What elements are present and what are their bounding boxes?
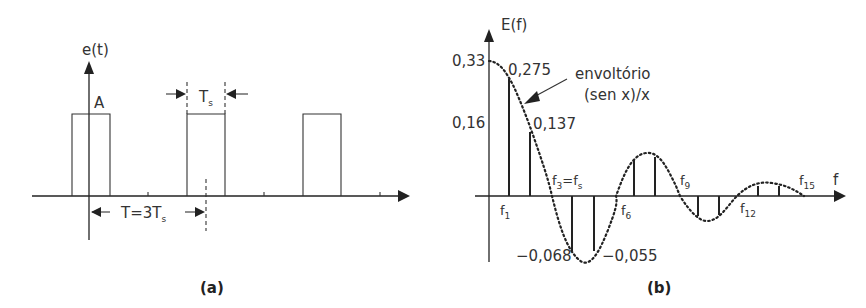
- value-f2: 0,137: [533, 115, 576, 133]
- caption-b: (b): [647, 279, 671, 297]
- freq-label-f15: f15: [799, 173, 815, 191]
- x-arrowhead-icon: [398, 190, 410, 202]
- pointer-arrowhead-icon: [524, 91, 540, 104]
- E-axis-label: E(f): [501, 16, 527, 34]
- freq-label-f12: f12: [740, 201, 756, 219]
- y-arrowhead-icon: [484, 29, 494, 42]
- x-arrowhead-icon: [834, 190, 846, 202]
- pulse-1: [72, 114, 110, 196]
- envelope-label-1: envoltório: [575, 65, 651, 83]
- caption-a: (a): [200, 279, 224, 297]
- y-tick-033: 0,33: [452, 52, 485, 70]
- y-arrowhead-icon: [84, 61, 94, 74]
- arrowhead-icon: [91, 207, 101, 217]
- value-f5: −0,055: [602, 247, 658, 265]
- period-label: T=3Ts: [120, 204, 166, 224]
- pulse-2: [187, 114, 225, 196]
- envelope-label-2: (sen x)/x: [584, 86, 650, 104]
- amplitude-label: A: [94, 94, 105, 112]
- figure-canvas: e(t) A Ts T=3Ts (a) E(f) f: [0, 0, 866, 308]
- freq-label-f1: f1: [500, 203, 510, 221]
- pulse-3: [303, 114, 341, 196]
- arrowhead-icon: [226, 89, 236, 99]
- panel-a: e(t) A Ts T=3Ts (a): [32, 41, 410, 297]
- value-f4: −0,068: [516, 247, 572, 265]
- panel-b: E(f) f 0,33 0,16 0,275 0,137 −0,068 −0,0…: [452, 16, 846, 297]
- freq-label-f3: f3=fs: [552, 173, 583, 191]
- y-tick-016: 0,16: [452, 114, 485, 132]
- ts-label: Ts: [198, 88, 213, 108]
- arrowhead-icon: [195, 207, 205, 217]
- f-axis-label: f: [833, 171, 839, 189]
- freq-label-f9: f9: [680, 173, 691, 191]
- e-axis-label: e(t): [82, 41, 109, 59]
- freq-label-f6: f6: [621, 203, 632, 221]
- value-f1: 0,275: [508, 61, 551, 79]
- arrowhead-icon: [176, 89, 186, 99]
